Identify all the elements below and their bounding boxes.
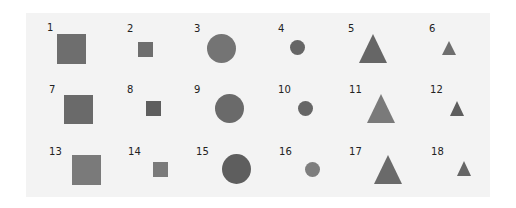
shape-number-label: 2 (127, 24, 134, 34)
shape-number-label: 14 (128, 147, 141, 157)
small-square-icon (138, 42, 153, 57)
small-triangle-icon (450, 101, 464, 116)
shape-number-label: 12 (430, 85, 443, 95)
small-square-icon (146, 101, 161, 116)
large-square-icon (64, 95, 93, 124)
large-square-icon (57, 34, 86, 64)
large-circle-icon (215, 94, 244, 123)
shape-number-label: 6 (429, 24, 436, 34)
shape-number-label: 17 (349, 147, 362, 157)
shape-number-label: 10 (278, 85, 291, 95)
large-circle-icon (207, 34, 236, 63)
shape-number-label: 5 (348, 24, 355, 34)
large-triangle-icon (359, 34, 387, 63)
small-triangle-icon (457, 161, 471, 176)
large-square-icon (72, 155, 101, 185)
shape-number-label: 15 (196, 147, 209, 157)
shape-number-label: 7 (49, 85, 56, 95)
shape-number-label: 13 (49, 147, 62, 157)
small-triangle-icon (442, 41, 456, 55)
shape-number-label: 11 (349, 85, 362, 95)
small-circle-icon (298, 101, 313, 116)
shape-number-label: 8 (127, 85, 134, 95)
shape-number-label: 16 (279, 147, 292, 157)
small-circle-icon (305, 162, 320, 177)
shape-number-label: 18 (431, 147, 444, 157)
shape-number-label: 4 (278, 24, 285, 34)
small-circle-icon (290, 40, 305, 55)
large-circle-icon (222, 154, 251, 184)
shape-number-label: 9 (194, 85, 201, 95)
shape-number-label: 1 (47, 23, 54, 33)
large-triangle-icon (367, 94, 395, 123)
small-square-icon (153, 162, 168, 177)
shape-number-label: 3 (194, 24, 201, 34)
large-triangle-icon (374, 155, 402, 184)
